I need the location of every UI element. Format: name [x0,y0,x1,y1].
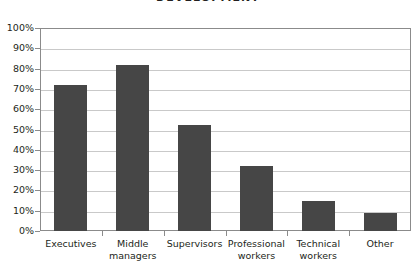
bar [302,201,335,231]
y-tick-label: 100% [0,23,34,33]
x-tick-mark [102,231,103,236]
y-tick-mark [35,211,40,212]
x-tick-label-line: Supervisors [164,238,226,250]
y-tick-mark [35,109,40,110]
bar [54,85,87,231]
chart-title: DEVELOPMENT [0,0,416,4]
x-tick-label: Professionalworkers [226,238,288,262]
x-tick-label: Middlemanagers [102,238,164,262]
y-tick-mark [35,28,40,29]
x-tick-label: Supervisors [164,238,226,250]
y-axis: 0%10%20%30%40%50%60%70%80%90%100% [0,28,34,231]
y-tick-label: 60% [0,104,34,114]
y-tick-label: 80% [0,64,34,74]
bar [116,65,149,231]
x-tick-label-line: Executives [40,238,102,250]
bar-chart-figure: DEVELOPMENT 0%10%20%30%40%50%60%70%80%90… [0,0,416,273]
bars-container [40,28,411,231]
y-tick-mark [35,48,40,49]
y-tick-mark [35,130,40,131]
x-tick-mark [164,231,165,236]
y-tick-label: 20% [0,185,34,195]
x-tick-label-line: Technical [287,238,349,250]
x-tick-label: Technicalworkers [287,238,349,262]
y-tick-mark [35,231,40,232]
x-tick-mark [349,231,350,236]
y-tick-mark [35,150,40,151]
bar [364,213,397,231]
y-tick-label: 0% [0,226,34,236]
y-tick-label: 90% [0,43,34,53]
bar [178,125,211,231]
x-tick-label-line: Middle [102,238,164,250]
y-tick-mark [35,69,40,70]
y-tick-label: 70% [0,84,34,94]
x-tick-mark [287,231,288,236]
x-tick-label: Other [349,238,411,250]
x-tick-label-line: Other [349,238,411,250]
y-tick-mark [35,190,40,191]
y-tick-label: 50% [0,125,34,135]
y-tick-label: 30% [0,165,34,175]
bar [240,166,273,231]
x-tick-label-line: workers [287,250,349,262]
x-axis: ExecutivesMiddlemanagersSupervisorsProfe… [40,238,411,272]
x-tick-label-line: managers [102,250,164,262]
y-tick-mark [35,89,40,90]
y-tick-label: 10% [0,206,34,216]
y-tick-mark [35,170,40,171]
x-tick-mark [226,231,227,236]
x-tick-label-line: workers [226,250,288,262]
y-tick-label: 40% [0,145,34,155]
x-tick-label-line: Professional [226,238,288,250]
x-tick-label: Executives [40,238,102,250]
